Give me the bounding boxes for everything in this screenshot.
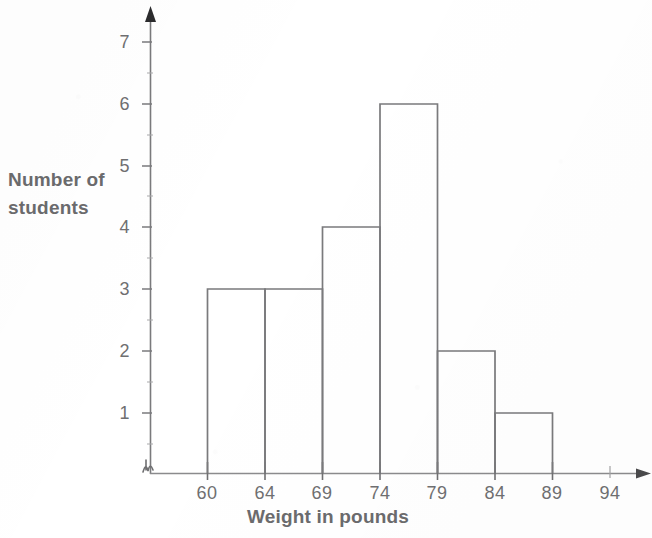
y-tick-label: 7 — [104, 32, 130, 53]
histogram-bar — [495, 413, 553, 473]
y-tick-label: 6 — [104, 94, 130, 115]
x-tick-label: 60 — [186, 483, 228, 504]
x-axis-title: Weight in pounds — [178, 506, 478, 528]
histogram-plot-area — [0, 0, 652, 538]
y-tick-label: 3 — [104, 279, 130, 300]
y-tick-label: 1 — [104, 403, 130, 424]
x-tick-label: 94 — [589, 483, 631, 504]
y-tick-label: 2 — [104, 341, 130, 362]
y-axis-arrow-icon — [145, 6, 156, 22]
histogram-bar — [265, 289, 323, 473]
histogram-bar — [208, 289, 266, 473]
histogram-figure: 1 2 3 4 5 6 7 60 64 69 74 79 84 89 94 Nu… — [0, 0, 652, 538]
histogram-bar — [438, 351, 496, 473]
histogram-bar — [380, 104, 438, 473]
axis-break-icon — [143, 460, 153, 472]
y-axis-title-line2: students — [8, 194, 140, 222]
histogram-bar — [323, 227, 381, 473]
x-axis-arrow-icon — [636, 469, 651, 479]
x-tick-label: 79 — [416, 483, 458, 504]
x-tick-label: 74 — [359, 483, 401, 504]
x-axis-ticks — [208, 462, 611, 480]
x-tick-label: 69 — [301, 483, 343, 504]
y-axis-title: Number of students — [8, 166, 140, 222]
x-tick-label: 89 — [531, 483, 573, 504]
x-tick-label: 84 — [474, 483, 516, 504]
y-axis-title-line1: Number of — [8, 166, 140, 194]
x-tick-label: 64 — [244, 483, 286, 504]
